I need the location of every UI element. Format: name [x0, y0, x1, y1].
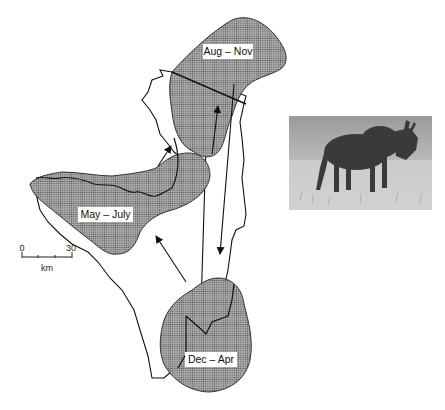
range-aug-nov [170, 18, 286, 157]
range-may-july [30, 153, 210, 254]
label-may-july: May – July [78, 207, 133, 222]
migration-map: Aug – Nov May – July Dec – Apr 0 30 km [0, 0, 445, 410]
label-dec-apr: Dec – Apr [185, 352, 237, 367]
svg-text:Aug – Nov: Aug – Nov [203, 45, 253, 57]
range-dec-apr [160, 278, 251, 392]
svg-text:Dec – Apr: Dec – Apr [188, 353, 235, 365]
svg-text:May – July: May – July [80, 208, 131, 220]
scale-end-label: 30 [66, 243, 76, 253]
scale-bar: 0 30 km [19, 243, 76, 273]
scale-unit-label: km [41, 263, 53, 273]
label-aug-nov: Aug – Nov [203, 44, 253, 59]
wildebeest-photo [289, 116, 432, 210]
arrow-dec-to-may [156, 236, 186, 282]
scale-start-label: 0 [19, 243, 24, 253]
